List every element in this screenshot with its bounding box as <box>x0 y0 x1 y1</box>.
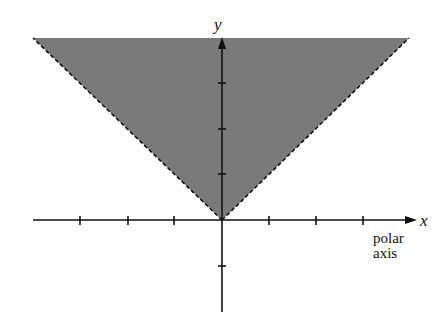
y-axis-label: y <box>212 15 222 34</box>
polar-axis-label-line2: axis <box>373 245 397 261</box>
x-axis-label: x <box>419 211 428 230</box>
diagram-canvas: y x polar axis <box>0 0 443 327</box>
x-axis-arrowhead-icon <box>405 216 417 224</box>
polar-axis-label-line1: polar <box>373 230 404 246</box>
polar-region-diagram: y x polar axis <box>0 0 443 327</box>
